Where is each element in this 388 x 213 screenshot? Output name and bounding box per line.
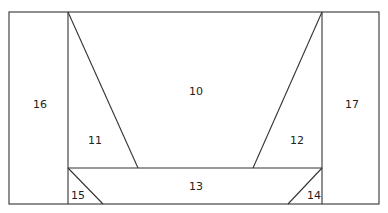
floor-plan-diagram: 10 11 12 13 14 15 16 17 xyxy=(0,0,388,213)
region-label-17: 17 xyxy=(345,98,359,111)
region-label-10: 10 xyxy=(189,85,203,98)
diagonal-11 xyxy=(68,12,138,168)
region-label-14: 14 xyxy=(307,189,321,202)
region-label-11: 11 xyxy=(88,134,102,147)
diagonal-12 xyxy=(253,12,322,168)
outer-boundary xyxy=(9,12,379,204)
region-label-12: 12 xyxy=(290,134,304,147)
region-label-16: 16 xyxy=(33,98,47,111)
region-label-13: 13 xyxy=(189,180,203,193)
region-label-15: 15 xyxy=(71,189,85,202)
